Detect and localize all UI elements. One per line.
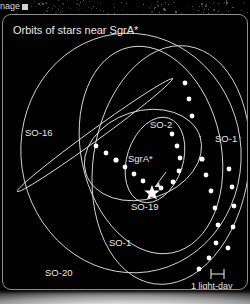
window-title-fragment: nage [0,0,30,13]
star-dot [149,7,151,9]
star-dot [57,10,58,11]
star-dot [46,10,47,11]
star-dot [157,1,158,2]
star-dot [42,3,44,5]
star-dot [100,10,101,11]
star-dot [85,4,86,5]
sgra-annotation [144,172,166,200]
star-dot [100,3,101,4]
star-dot [62,3,64,5]
image-canvas: nage Orbits of stars near SgrA* [0,0,250,304]
star-dot [208,9,209,10]
orbit-label-so16: SO-16 [25,127,52,138]
star-dot [89,1,90,2]
star-dot [203,12,204,13]
star-dot [91,8,92,9]
star-dot [82,2,83,3]
star-dot [233,7,234,8]
star-dot [79,6,80,7]
star-dot [243,2,245,4]
star-dot [77,0,78,1]
star-dot [67,0,68,1]
star-dot [126,3,127,4]
star-dot [204,9,205,10]
star-dot [157,5,159,7]
star-dot [199,10,200,11]
orbit-label-so1-right: SO-1 [215,133,237,144]
star-dot [121,2,122,3]
star-dot [175,11,177,13]
star-dot [202,6,203,7]
star-dot [38,3,40,5]
window-title-text: nage [0,1,20,12]
star-dot [219,10,220,11]
orbit-label-so2: SO-2 [150,119,172,130]
star-dot [223,11,224,12]
star-dot [53,5,54,6]
orbit-path-so1 [61,33,242,268]
star-dot [40,5,41,6]
star-dot [214,2,215,3]
star-dot [48,7,49,8]
star-dot [233,12,234,13]
star-dot [161,4,162,5]
star-dot [68,7,69,8]
star-dot [199,6,200,7]
orbit-label-so20: SO-20 [45,267,72,278]
star-dot [88,7,89,8]
star-dot [136,11,137,12]
star-dot [96,8,97,9]
star-dot [210,7,211,8]
star-dot [209,2,210,3]
resize-handle-icon[interactable] [22,4,28,10]
scale-bar-caption: 1 light-day [191,281,233,290]
star-dot [34,1,35,2]
star-dot [76,7,77,8]
star-dot [45,2,47,4]
star-dot [36,6,37,7]
page-title: Orbits of stars near SgrA* [13,24,138,37]
star-dot [47,8,48,9]
star-dot [61,10,62,11]
orbit-label-so19: SO-19 [131,201,158,212]
star-dot [78,9,79,10]
star-dot [197,10,198,11]
star-dot [86,10,87,11]
scale-bar-icon [211,269,224,279]
star-dot [193,9,194,10]
star-dot [188,7,189,8]
diagram-panel: Orbits of stars near SgrA* [2,14,248,290]
orbit-diagram [3,15,248,290]
star-dot [47,11,48,12]
star-dot [113,4,114,5]
star-dot [51,10,52,11]
star-dot [83,0,84,1]
star-dot [137,6,138,7]
bottom-light-band [0,290,250,304]
star-dot [47,4,48,5]
star-dot [192,6,193,7]
star-dot [238,3,239,4]
star-dot [168,4,169,5]
orbit-label-sgra: SgrA* [128,153,153,164]
star-dot [201,3,203,5]
star-dot [55,6,56,7]
star-dot [114,7,115,8]
star-dot [154,8,155,9]
star-dot [143,4,144,5]
star-dot [213,9,215,11]
star-dot [151,11,153,13]
star-dot [103,11,104,12]
star-dot [81,8,82,9]
star-dot [31,6,32,7]
star-dot [205,5,207,7]
star-dot [59,6,60,7]
star-dot [93,6,94,7]
star-dot [164,9,166,11]
star-dot [62,8,63,9]
star-dot [70,8,71,9]
star-dot [241,10,242,11]
star-dot [60,12,61,13]
star-dot [159,12,160,13]
star-dot [58,0,59,1]
